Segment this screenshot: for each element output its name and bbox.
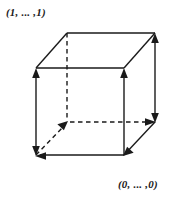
cube-diagram-svg xyxy=(0,0,188,201)
edge-top-left-diagonal xyxy=(36,33,67,68)
up-arrow-front-right-edge xyxy=(120,68,128,78)
down-arrow-front-left-edge xyxy=(32,146,40,156)
vertex-label-all-ones: (1, ... ,1) xyxy=(6,6,46,18)
up-arrow-back-right-edge xyxy=(151,33,159,43)
edge-top-right-diagonal xyxy=(124,33,155,68)
hidden-edges-group xyxy=(36,33,146,155)
edge-back-bottom-left-to-front-bottom-left xyxy=(36,126,64,155)
vertex-label-all-zeros: (0, ... ,0) xyxy=(118,178,158,190)
arrowheads-group xyxy=(32,33,159,160)
up-right-arrow-hidden-diagonal xyxy=(57,121,68,130)
up-arrow-front-left-edge xyxy=(32,68,40,78)
cube-figure: (1, ... ,1) (0, ... ,0) xyxy=(0,0,188,201)
